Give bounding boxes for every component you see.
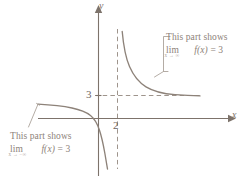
annotation-top-right-limit: limx → ∞f(x) = 3 <box>166 45 228 57</box>
limit-subscript-top: x → ∞ <box>164 53 179 58</box>
function-notation-top: f(x) <box>194 45 208 55</box>
y-tick-label-3: 3 <box>86 89 92 100</box>
x-tick-label-2: 2 <box>113 120 119 131</box>
annotation-top-right: This part shows limx → ∞f(x) = 3 <box>166 32 228 56</box>
limit-subscript-bottom: x → −∞ <box>8 152 26 157</box>
x-axis-label: x <box>232 110 236 120</box>
limit-value-top: = 3 <box>210 45 223 55</box>
limit-value-bottom: = 3 <box>57 144 70 154</box>
annotation-bottom-left-limit: limx → −∞f(x) = 3 <box>10 144 72 156</box>
y-axis-label: y <box>99 1 103 11</box>
function-notation-bottom: f(x) <box>41 144 55 154</box>
annotation-top-right-line1: This part shows <box>166 32 228 42</box>
leader-line-top-right <box>155 72 164 78</box>
leader-line-bottom-left <box>29 104 39 127</box>
annotation-bottom-left: This part shows limx → −∞f(x) = 3 <box>10 131 72 155</box>
annotation-bottom-left-line1: This part shows <box>10 131 72 141</box>
limit-figure: y x 3 2 This part shows limx → ∞f(x) = 3… <box>0 0 250 179</box>
